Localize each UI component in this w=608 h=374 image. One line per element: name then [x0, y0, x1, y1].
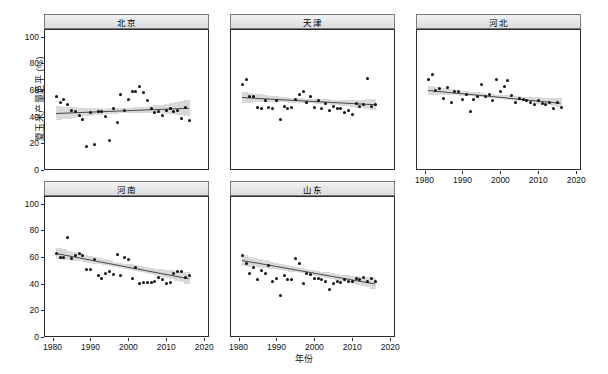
data-point [343, 111, 346, 114]
y-tick-label: 80 [0, 225, 39, 235]
data-point [176, 109, 179, 112]
data-point [142, 91, 145, 94]
data-point [298, 93, 301, 96]
data-point [161, 278, 164, 281]
data-point [362, 276, 365, 279]
data-point [298, 262, 301, 265]
data-point [127, 98, 130, 101]
data-point [127, 258, 130, 261]
data-point [328, 288, 331, 291]
data-point [184, 106, 187, 109]
x-tick-label: 1990 [256, 342, 296, 352]
data-point [74, 110, 77, 113]
data-point [165, 282, 168, 285]
x-tick-label: 2000 [480, 175, 520, 185]
data-point [560, 106, 563, 109]
plot-area-shandong [230, 196, 395, 337]
y-tick-label: 20 [0, 305, 39, 315]
data-point [248, 272, 251, 275]
data-point [157, 276, 160, 279]
x-tick-mark [204, 338, 205, 341]
data-point [104, 272, 107, 275]
data-point [472, 98, 475, 101]
data-point [264, 272, 267, 275]
data-point [180, 117, 183, 120]
data-point [305, 101, 308, 104]
panel-title-shandong: 山东 [303, 183, 323, 195]
x-tick-mark [53, 338, 54, 341]
data-point [165, 109, 168, 112]
data-point [339, 107, 342, 110]
y-tick-label: 40 [0, 112, 39, 122]
data-point [541, 102, 544, 105]
data-point [533, 103, 536, 106]
x-tick-label: 2010 [518, 175, 558, 185]
data-point [366, 77, 369, 80]
data-point [442, 97, 445, 100]
data-point [112, 107, 115, 110]
data-point [116, 121, 119, 124]
data-point [491, 99, 494, 102]
y-tick-mark [41, 310, 44, 311]
data-point [514, 101, 517, 104]
data-point [153, 280, 156, 283]
x-tick-label: 1980 [405, 175, 445, 185]
data-point [317, 99, 320, 102]
data-point [116, 253, 119, 256]
panel-title-tianjin: 天津 [303, 16, 323, 28]
data-point [461, 98, 464, 101]
data-point [366, 280, 369, 283]
data-point [351, 113, 354, 116]
data-point [503, 85, 506, 88]
data-point [290, 106, 293, 109]
data-point [81, 118, 84, 121]
x-tick-label: 2020 [556, 175, 596, 185]
data-point [150, 281, 153, 284]
data-point [355, 277, 358, 280]
y-tick-mark [41, 337, 44, 338]
data-point [488, 93, 491, 96]
plot-inner-0 [45, 30, 208, 169]
data-point [305, 272, 308, 275]
data-point [188, 274, 191, 277]
data-point [506, 79, 509, 82]
x-tick-mark [276, 338, 277, 341]
data-point [290, 278, 293, 281]
data-point [446, 86, 449, 89]
data-point [518, 97, 521, 100]
data-point [119, 93, 122, 96]
data-point [134, 90, 137, 93]
plot-inner-1 [231, 30, 394, 169]
data-point [131, 90, 134, 93]
data-point [313, 277, 316, 280]
data-point [85, 145, 88, 148]
data-point [465, 93, 468, 96]
data-point [302, 90, 305, 93]
y-tick-label: 100 [0, 199, 39, 209]
data-point [324, 280, 327, 283]
data-point [309, 273, 312, 276]
data-point [484, 95, 487, 98]
data-point [241, 83, 244, 86]
data-point [286, 278, 289, 281]
data-point [495, 78, 498, 81]
data-point [339, 281, 342, 284]
data-point [146, 281, 149, 284]
y-tick-label: 60 [0, 85, 39, 95]
data-point [66, 103, 69, 106]
data-point [351, 280, 354, 283]
data-point [529, 101, 532, 104]
data-point [374, 103, 377, 106]
x-tick-mark [538, 171, 539, 174]
x-tick-mark [425, 171, 426, 174]
y-tick-mark [41, 257, 44, 258]
panel-title-hebei: 河北 [489, 16, 509, 28]
facet-panel-hebei: 河北 [416, 14, 581, 170]
data-point [252, 266, 255, 269]
y-tick-mark [41, 37, 44, 38]
data-point [286, 107, 289, 110]
data-point [62, 98, 65, 101]
data-point [328, 109, 331, 112]
y-tick-mark [41, 230, 44, 231]
x-tick-label: 2000 [108, 342, 148, 352]
